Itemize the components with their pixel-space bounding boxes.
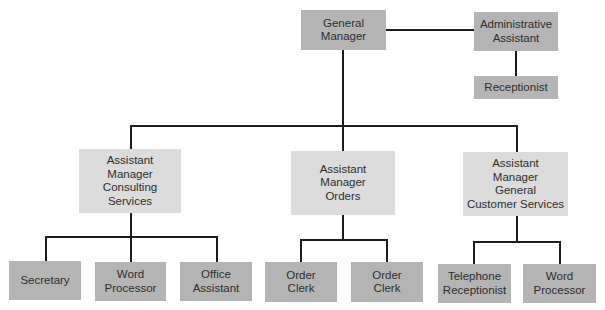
connector-customer-down bbox=[516, 216, 518, 242]
connector-to-order-clerk-2 bbox=[386, 239, 388, 262]
connector-orders-bus bbox=[300, 239, 388, 241]
connector-bus-consulting bbox=[130, 125, 132, 149]
connector-consulting-down bbox=[130, 213, 132, 237]
node-receptionist: Receptionist bbox=[474, 76, 558, 99]
connector-admin-receptionist bbox=[515, 51, 517, 76]
connector-to-secretary bbox=[45, 236, 47, 261]
connector-to-order-clerk-1 bbox=[300, 239, 302, 262]
connector-to-office-assistant bbox=[216, 236, 218, 262]
connector-to-word-processor-2 bbox=[559, 241, 561, 264]
node-office-assistant: Office Assistant bbox=[180, 262, 252, 301]
node-word-processor-2: Word Processor bbox=[523, 264, 596, 303]
connector-gm-down bbox=[342, 50, 344, 151]
node-general-manager: General Manager bbox=[301, 10, 386, 50]
node-word-processor-1: Word Processor bbox=[95, 262, 166, 301]
node-administrative-assistant: Administrative Assistant bbox=[474, 12, 558, 51]
connector-to-telephone-receptionist bbox=[473, 241, 475, 264]
node-secretary: Secretary bbox=[9, 261, 81, 300]
node-order-clerk-1: Order Clerk bbox=[265, 262, 337, 302]
connector-gm-admin bbox=[386, 29, 474, 31]
node-am-consulting-services: Assistant Manager Consulting Services bbox=[79, 149, 181, 213]
node-am-general-customer-services: Assistant Manager General Customer Servi… bbox=[463, 152, 568, 216]
connector-main-bus bbox=[130, 125, 518, 127]
connector-customer-bus bbox=[473, 241, 561, 243]
node-am-orders: Assistant Manager Orders bbox=[291, 151, 395, 215]
connector-orders-down bbox=[342, 215, 344, 240]
node-telephone-receptionist: Telephone Receptionist bbox=[438, 264, 511, 303]
connector-to-word-processor-1 bbox=[130, 236, 132, 262]
connector-bus-customer bbox=[516, 126, 518, 152]
node-order-clerk-2: Order Clerk bbox=[351, 262, 423, 302]
